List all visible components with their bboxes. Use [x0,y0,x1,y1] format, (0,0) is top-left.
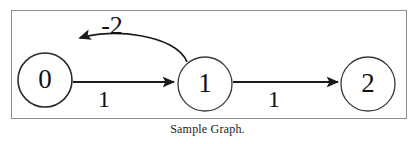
figure-root: 0 1 2 1 1 -2 Sample Graph. [0,0,415,144]
edge-weight-1-2: 1 [252,87,296,111]
node-label-0: 0 [25,66,65,93]
edge-weight-1-0: -2 [90,13,134,39]
figure-caption: Sample Graph. [0,122,415,137]
node-label-1: 1 [185,70,225,97]
node-label-2: 2 [348,70,388,97]
edge-weight-0-1: 1 [82,87,126,111]
